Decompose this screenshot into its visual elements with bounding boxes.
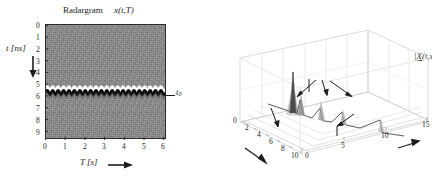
tick-label: 0: [305, 151, 309, 160]
tick-label: 5: [341, 141, 345, 150]
radargram-title-text: Radargram: [63, 5, 103, 15]
tick-label: 4: [36, 68, 40, 77]
spectrum-z-axis-label: |X(t,ν)|: [414, 52, 432, 61]
tick-label: 3: [36, 57, 40, 66]
right-arrow-icon: [108, 160, 134, 170]
tick-label: 0: [43, 142, 47, 151]
radargram-title: Radargram x(t,T): [63, 6, 134, 15]
tick-label: 5: [36, 80, 40, 89]
tick-label: 2: [36, 45, 40, 54]
radargram-faint-band: [46, 105, 165, 117]
tick-label: 8: [36, 116, 40, 125]
radargram-panel: Radargram x(t,T): [0, 0, 216, 182]
tick-label: 2: [245, 123, 249, 132]
reflector-waveform: [46, 80, 165, 106]
tick-label: 2: [83, 142, 87, 151]
tick-label: 1: [36, 33, 40, 42]
tick-label: 8: [281, 144, 285, 153]
radargram-faint-band: [46, 65, 165, 75]
radargram-image: [45, 24, 166, 139]
tick-label: 6: [161, 142, 165, 151]
tick-label: 10: [381, 131, 389, 140]
tick-label: 4: [257, 130, 261, 139]
tick-label: 7: [36, 104, 40, 113]
radargram-x-axis-label: T [s]: [80, 158, 98, 167]
tick-label: 5: [142, 142, 146, 151]
t0-annotation-label: t0: [176, 88, 181, 97]
spectrum-panel: Spectrum X(t,ν) |X(t,ν)| Harmonics t0 ν0…: [216, 0, 432, 182]
tick-label: 1: [63, 142, 67, 151]
tick-label: 0: [36, 21, 40, 30]
t0-leader-line: [165, 95, 175, 96]
radargram-title-math: x(t,T): [114, 5, 134, 15]
tick-label: 3: [102, 142, 106, 151]
radargram-reflector: [46, 80, 165, 106]
tick-label: 9: [36, 128, 40, 137]
tick-label: 10: [291, 151, 299, 160]
tick-label: 6: [269, 137, 273, 146]
radargram-y-axis-label: t [ns]: [6, 44, 26, 53]
tick-label: 6: [36, 92, 40, 101]
tick-label: 4: [122, 142, 126, 151]
tick-label: 0: [233, 116, 237, 125]
tick-label: 15: [422, 120, 430, 129]
figure-root: Radargram x(t,T): [0, 0, 432, 182]
